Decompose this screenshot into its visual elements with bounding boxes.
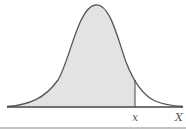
normal-curve-diagram: x X xyxy=(0,0,186,131)
shaded-area xyxy=(7,5,135,107)
cutoff-label: x xyxy=(132,111,139,124)
axis-label: X xyxy=(174,111,184,124)
